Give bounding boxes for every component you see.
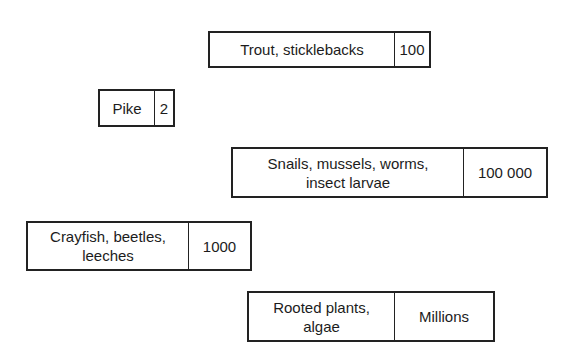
- organism-name: Trout, sticklebacks: [210, 33, 395, 66]
- organism-name: Pike: [100, 91, 155, 125]
- organism-name: Snails, mussels, worms, insect larvae: [233, 149, 464, 196]
- organism-count: 100: [395, 33, 429, 66]
- box-trout-sticklebacks: Trout, sticklebacks 100: [208, 31, 431, 68]
- box-pike: Pike 2: [98, 89, 175, 127]
- box-snails-mussels-worms: Snails, mussels, worms, insect larvae 10…: [231, 147, 548, 198]
- organism-count: 1000: [189, 223, 250, 269]
- organism-name: Rooted plants, algae: [249, 293, 395, 340]
- organism-count: 100 000: [464, 149, 546, 196]
- organism-count: 2: [155, 91, 173, 125]
- box-crayfish-beetles-leeches: Crayfish, beetles, leeches 1000: [26, 221, 252, 271]
- organism-name: Crayfish, beetles, leeches: [28, 223, 189, 269]
- box-rooted-plants-algae: Rooted plants, algae Millions: [247, 291, 495, 342]
- organism-count: Millions: [395, 293, 493, 340]
